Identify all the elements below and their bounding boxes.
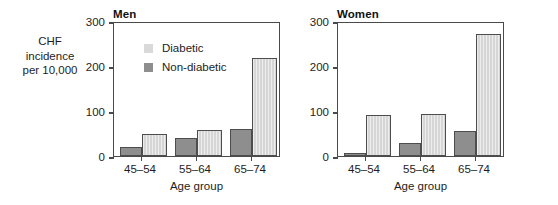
y-tick-label-200-men: 200 — [71, 62, 105, 73]
y-tick-300-men — [109, 22, 114, 23]
y-axis-label-line-2: incidence — [4, 49, 96, 64]
y-tick-100-men — [109, 112, 114, 113]
y-axis-label-line-1: CHF — [4, 34, 96, 49]
x-tick-45-54-men — [141, 156, 142, 161]
chf-incidence-grouped-bar-chart: CHF incidence per 10,000 Men 300 200 100… — [0, 0, 558, 205]
y-tick-label-300-men: 300 — [71, 17, 105, 28]
bar-men-45-54-non-diabetic — [120, 147, 142, 156]
y-tick-0-men — [109, 157, 114, 158]
x-axis-label-55-64-women: 55–64 — [391, 163, 447, 175]
panel-women: Women 300 200 100 0 45–54 55–64 65–74 Ag… — [320, 0, 510, 205]
bar-men-65-74-diabetic — [252, 58, 277, 156]
y-tick-300-women — [333, 22, 338, 23]
legend-item-diabetic: Diabetic — [144, 39, 227, 58]
panel-title-men: Men — [113, 8, 136, 20]
legend-swatch-non-diabetic — [144, 63, 153, 72]
bar-men-55-64-diabetic — [197, 130, 222, 156]
panel-title-women: Women — [337, 8, 379, 20]
plot-area-women: 300 200 100 0 — [337, 22, 504, 157]
y-tick-label-0-women: 0 — [295, 152, 329, 163]
x-tick-65-74-men — [251, 156, 252, 161]
bar-men-45-54-diabetic — [142, 134, 167, 157]
x-axis-label-55-64-men: 55–64 — [167, 163, 223, 175]
legend: Diabetic Non-diabetic — [144, 39, 227, 77]
x-tick-45-54-women — [365, 156, 366, 161]
bar-women-45-54-diabetic — [366, 115, 391, 156]
y-tick-200-men — [109, 67, 114, 68]
y-tick-label-100-men: 100 — [71, 107, 105, 118]
x-axis-title-men: Age group — [113, 180, 280, 192]
x-tick-55-64-women — [420, 156, 421, 161]
y-tick-label-100-women: 100 — [295, 107, 329, 118]
x-axis-label-45-54-women: 45–54 — [336, 163, 392, 175]
legend-label-diabetic: Diabetic — [162, 43, 204, 54]
bar-men-65-74-non-diabetic — [230, 129, 252, 156]
bar-women-55-64-diabetic — [421, 114, 446, 156]
y-tick-0-women — [333, 157, 338, 158]
y-tick-label-300-women: 300 — [295, 17, 329, 28]
x-axis-title-women: Age group — [337, 180, 504, 192]
y-tick-label-200-women: 200 — [295, 62, 329, 73]
legend-swatch-diabetic — [144, 44, 153, 53]
bar-women-45-54-non-diabetic — [344, 153, 366, 156]
legend-item-non-diabetic: Non-diabetic — [144, 58, 227, 77]
y-tick-label-0-men: 0 — [71, 152, 105, 163]
y-tick-100-women — [333, 112, 338, 113]
x-axis-label-65-74-women: 65–74 — [446, 163, 502, 175]
x-axis-label-65-74-men: 65–74 — [222, 163, 278, 175]
x-tick-55-64-men — [196, 156, 197, 161]
panel-men: Men 300 200 100 0 Diabetic — [96, 0, 286, 205]
bar-women-55-64-non-diabetic — [399, 143, 421, 156]
x-axis-label-45-54-men: 45–54 — [112, 163, 168, 175]
bar-women-65-74-diabetic — [476, 34, 501, 156]
y-tick-200-women — [333, 67, 338, 68]
legend-label-non-diabetic: Non-diabetic — [162, 62, 227, 73]
bar-women-65-74-non-diabetic — [454, 131, 476, 156]
x-tick-65-74-women — [475, 156, 476, 161]
plot-area-men: 300 200 100 0 Diabetic Non-diabetic — [113, 22, 280, 157]
bar-men-55-64-non-diabetic — [175, 138, 197, 156]
